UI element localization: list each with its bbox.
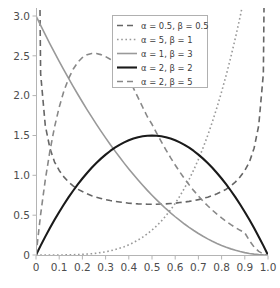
y-tick-label-2: 1.0 <box>13 169 30 181</box>
chart-legend: α = 0.5, β = 0.5α = 5, β = 1α = 1, β = 3… <box>113 16 209 88</box>
y-tick-label-4: 2.0 <box>13 89 30 101</box>
legend-label-2: α = 5, β = 1 <box>141 35 193 45</box>
x-tick-label-3: 0.3 <box>97 261 114 273</box>
x-tick-label-5: 0.5 <box>144 261 161 273</box>
x-tick-label-4: 0.4 <box>120 261 137 273</box>
x-tick-label-8: 0.8 <box>213 261 230 273</box>
x-tick-label-7: 0.7 <box>190 261 207 273</box>
y-tick-label-3: 1.5 <box>13 129 30 141</box>
legend-label-5: α = 2, β = 5 <box>141 77 193 87</box>
x-axis-tick-labels: 00.10.20.30.40.50.60.70.80.91.0 <box>33 261 277 273</box>
y-tick-label-1: 0.5 <box>13 209 30 221</box>
beta-distribution-chart: 00.10.20.30.40.50.60.70.80.91.0 00.51.01… <box>0 0 280 288</box>
x-tick-label-2: 0.2 <box>74 261 91 273</box>
y-axis-ticks <box>33 16 37 255</box>
x-tick-label-6: 0.6 <box>167 261 184 273</box>
y-tick-label-5: 2.5 <box>13 50 30 62</box>
x-tick-label-9: 0.9 <box>236 261 253 273</box>
y-tick-label-6: 3.0 <box>13 10 30 22</box>
legend-label-3: α = 1, β = 3 <box>141 49 193 59</box>
y-axis-tick-labels: 00.51.01.52.02.53.0 <box>13 10 30 261</box>
chart-container: 00.10.20.30.40.50.60.70.80.91.0 00.51.01… <box>0 0 280 288</box>
y-tick-label-0: 0 <box>23 249 30 261</box>
x-tick-label-0: 0 <box>33 261 40 273</box>
x-axis-ticks <box>36 256 268 260</box>
x-tick-label-1: 0.1 <box>51 261 68 273</box>
legend-label-1: α = 0.5, β = 0.5 <box>141 21 209 31</box>
legend-label-4: α = 2, β = 2 <box>141 63 193 73</box>
x-tick-label-10: 1.0 <box>260 261 277 273</box>
